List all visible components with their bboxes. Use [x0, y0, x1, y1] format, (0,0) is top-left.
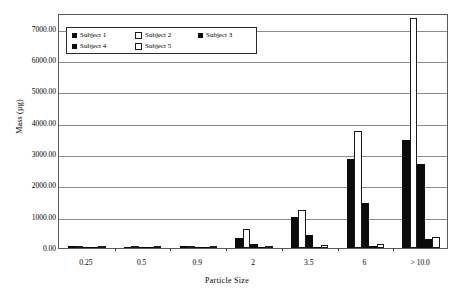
bar [68, 246, 76, 248]
bar [306, 235, 314, 248]
y-tick-label: 4000.00 [10, 120, 56, 128]
bar [313, 247, 321, 248]
bar [417, 164, 425, 248]
legend-swatch-icon [135, 32, 142, 39]
bar [83, 247, 91, 248]
legend: Subject 1Subject 2Subject 3Subject 4Subj… [66, 27, 257, 54]
x-tick-label: > 10.0 [411, 258, 430, 267]
x-tick-label: 6 [363, 258, 367, 267]
x-axis-tick-mark [170, 248, 171, 251]
y-axis-tick-labels: 0.001000.002000.003000.004000.005000.006… [8, 0, 56, 294]
legend-row: Subject 1Subject 2Subject 3 [72, 31, 250, 39]
legend-label: Subject 5 [145, 42, 171, 50]
bar [243, 229, 251, 248]
bar [258, 247, 266, 248]
legend-swatch-icon [135, 43, 142, 50]
bar [250, 244, 258, 248]
x-axis-tick-mark [282, 248, 283, 251]
bar [425, 239, 433, 248]
bar [362, 203, 370, 248]
y-tick-label: 1000.00 [10, 214, 56, 222]
bar [410, 18, 418, 248]
legend-item: Subject 2 [135, 31, 187, 39]
bar-chart-figure: Mass (µg) 0.001000.002000.003000.004000.… [0, 0, 454, 294]
bar [354, 131, 362, 248]
y-tick-label: 0.00 [10, 245, 56, 253]
bar [91, 247, 99, 248]
bar [180, 246, 188, 248]
bar [76, 246, 84, 249]
legend-item: Subject 4 [72, 42, 124, 50]
bar [265, 246, 273, 248]
x-tick-label: 2 [251, 258, 255, 267]
legend-swatch-icon [72, 44, 77, 49]
bar [377, 244, 385, 248]
bar [202, 247, 210, 248]
bar [98, 246, 106, 248]
legend-label: Subject 4 [80, 42, 106, 50]
x-axis-tick-mark [338, 248, 339, 251]
bar [146, 247, 154, 248]
bar [291, 217, 299, 248]
bar-group [393, 15, 449, 248]
bar-group [338, 15, 394, 248]
bar [298, 210, 306, 248]
x-axis-tick-mark [393, 248, 394, 251]
y-tick-label: 6000.00 [10, 57, 56, 65]
bar [139, 247, 147, 248]
x-tick-label: 0.9 [193, 258, 202, 267]
x-tick-label: 0.25 [79, 258, 92, 267]
legend-item: Subject 1 [72, 31, 124, 39]
x-tick-label: 3.5 [304, 258, 313, 267]
bar [124, 247, 132, 248]
bar [131, 246, 139, 248]
x-axis-tick-mark [226, 248, 227, 251]
y-tick-label: 3000.00 [10, 151, 56, 159]
bar [154, 246, 162, 248]
bar-group [282, 15, 338, 248]
x-axis-title: Particle Size [0, 276, 454, 285]
x-tick-label: 0.5 [137, 258, 146, 267]
bar [235, 238, 243, 248]
bar [432, 237, 440, 248]
legend-label: Subject 3 [206, 31, 232, 39]
legend-label: Subject 2 [145, 31, 171, 39]
bar [195, 247, 203, 248]
legend-item: Subject 3 [198, 31, 250, 39]
x-axis-tick-mark [115, 248, 116, 251]
legend-row: Subject 4Subject 5 [72, 42, 250, 50]
legend-swatch-icon [72, 33, 77, 38]
bar [402, 140, 410, 248]
legend-item: Subject 5 [135, 42, 187, 50]
bar [347, 159, 355, 248]
bar [369, 246, 377, 249]
bar [321, 245, 329, 248]
bar [187, 246, 195, 248]
legend-label: Subject 1 [80, 31, 106, 39]
y-tick-label: 7000.00 [10, 26, 56, 34]
y-tick-label: 5000.00 [10, 88, 56, 96]
bar [210, 246, 218, 248]
legend-swatch-icon [198, 33, 203, 38]
y-tick-label: 2000.00 [10, 182, 56, 190]
